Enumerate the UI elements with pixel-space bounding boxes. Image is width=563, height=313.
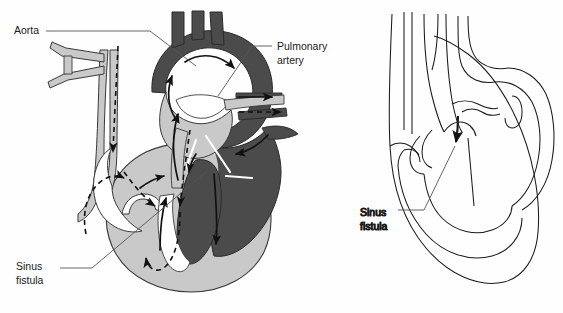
- left-subclavian-fork-lower: [48, 66, 104, 88]
- brachiocephalic-trunk: [172, 12, 184, 48]
- right-atrium-outline: [494, 82, 540, 206]
- right-atrium-outer: [508, 68, 554, 210]
- left-common-carotid-artery: [192, 11, 204, 40]
- aortic-valve-sinus: [176, 95, 229, 119]
- left-subclavian-fork-upper: [50, 42, 104, 62]
- label-sinus-fistula-left-line2: fistula: [16, 274, 44, 286]
- figure-svg: Aorta Pulmonary artery Sinus fistula: [0, 0, 563, 313]
- arch-vessel-outline-lower: [468, 16, 508, 69]
- label-sinus-fistula-right-line2: fistula: [360, 220, 388, 232]
- right-panel-heart: Sinus fistula: [360, 12, 554, 283]
- sinus-outline: [452, 101, 498, 109]
- vessel-junction: [64, 56, 72, 74]
- label-aorta: Aorta: [14, 24, 39, 36]
- label-pulmonary-artery-line2: artery: [277, 54, 305, 66]
- leader-line-sinus-fistula-right: [398, 146, 455, 210]
- ventricle-cavity-outer: [398, 166, 522, 258]
- pulmonary-trunk-branch: [432, 14, 438, 70]
- label-sinus-fistula-left-line1: Sinus: [16, 260, 42, 272]
- label-sinus-fistula-right-line1: Sinus: [360, 206, 386, 218]
- left-outflow-outline: [422, 130, 432, 168]
- left-atrium-outline: [390, 143, 420, 162]
- superior-vena-cava: [262, 126, 298, 139]
- label-pulmonary-artery-line1: Pulmonary: [277, 40, 328, 52]
- right-pulmonary-vein-branch: [238, 108, 287, 120]
- interventricular-septum-outline: [468, 138, 474, 206]
- pulmonary-trunk-outline-right: [446, 14, 462, 132]
- anatomical-figure: Aorta Pulmonary artery Sinus fistula: [0, 0, 563, 313]
- pulmonary-trunk-outline-left: [424, 14, 444, 132]
- left-appendage-tip: [398, 150, 404, 166]
- arch-vessel-outline-upper: [458, 16, 494, 82]
- arrow-aortic-arch-flow: [185, 56, 234, 68]
- left-subclavian-artery: [210, 12, 224, 45]
- left-panel-heart: Aorta Pulmonary artery Sinus fistula: [14, 11, 328, 292]
- sinus-outline-lower: [462, 109, 500, 115]
